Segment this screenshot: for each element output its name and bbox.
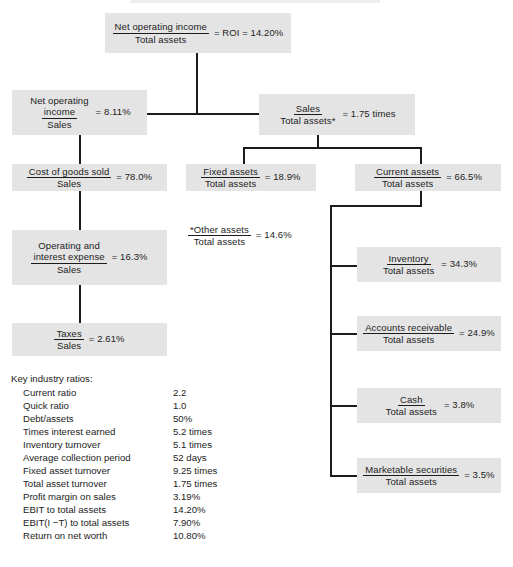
table-row: EBIT to total assets 14.20%: [23, 503, 217, 516]
node-current-assets-fraction: Current assets Total assets: [374, 166, 441, 190]
node-operating-and-interest-expense-denominator: Sales: [55, 264, 83, 275]
node-cash-denominator: Total assets: [384, 406, 439, 417]
node-roi-fraction: Net operating income Total assets: [113, 21, 209, 45]
table-row: Fixed asset turnover 9.25 times: [23, 464, 217, 477]
node-asset-turnover-numerator: Sales: [294, 103, 322, 115]
node-inventory-result: = 34.3%: [441, 259, 477, 270]
node-roi-result: = ROI = 14.20%: [214, 28, 284, 39]
node-inventory-fraction: Inventory Total assets: [381, 253, 436, 277]
connector-cogs-to-operating: [79, 191, 81, 230]
page-top-cutoff-artifact: [130, 0, 380, 3]
node-taxes-denominator: Sales: [55, 340, 83, 351]
node-cash-result: = 3.8%: [444, 400, 474, 411]
node-cash-fraction: Cash Total assets: [384, 394, 439, 418]
node-taxes-numerator: Taxes: [54, 328, 83, 340]
ratio-name: Current ratio: [23, 386, 173, 399]
node-roi-numerator: Net operating income: [113, 21, 209, 33]
ratio-name: Times interest earned: [23, 425, 173, 438]
node-cash-numerator: Cash: [398, 394, 425, 406]
node-current-assets-result: = 66.5%: [446, 172, 482, 183]
node-profit-margin-numerator-line2: income: [42, 106, 77, 118]
node-fixed-assets-numerator: Fixed assets: [201, 166, 260, 178]
ratio-value: 9.25 times: [173, 464, 217, 477]
node-profit-margin-denominator: Sales: [45, 119, 73, 130]
table-row: EBIT(I −T) to total assets 7.90%: [23, 516, 217, 529]
connector-currentassets-stem: [420, 191, 422, 206]
node-taxes: Taxes Sales = 2.61%: [12, 323, 167, 356]
node-cost-of-goods-sold: Cost of goods sold Sales = 78.0%: [12, 164, 167, 191]
connector-operating-to-taxes: [79, 285, 81, 323]
ratio-value: 1.0: [173, 399, 217, 412]
node-asset-turnover-fraction: Sales Total assets*: [278, 103, 337, 127]
node-operating-and-interest-expense-numerator-line1: Operating and: [36, 240, 102, 251]
node-current-assets: Current assets Total assets = 66.5%: [355, 164, 501, 191]
node-fixed-assets: Fixed assets Total assets = 18.9%: [186, 164, 316, 191]
ratio-name: Quick ratio: [23, 399, 173, 412]
connector-bus-to-inventory: [330, 265, 357, 267]
node-taxes-result: = 2.61%: [89, 334, 125, 345]
connector-currentassets-elbow: [330, 205, 422, 207]
node-current-assets-numerator: Current assets: [374, 166, 441, 178]
node-cost-of-goods-sold-fraction: Cost of goods sold Sales: [27, 166, 112, 190]
table-row: Times interest earned 5.2 times: [23, 425, 217, 438]
node-inventory-numerator: Inventory: [387, 253, 431, 265]
table-row: Debt/assets 50%: [23, 412, 217, 425]
connector-row2-horizontal: [132, 113, 271, 115]
connector-to-fixed-assets: [243, 147, 245, 164]
node-roi: Net operating income Total assets = ROI …: [105, 13, 291, 53]
node-operating-and-interest-expense-result: = 16.3%: [112, 252, 148, 263]
connector-profitmargin-to-cogs: [79, 135, 81, 164]
connector-current-asset-bus: [330, 205, 332, 477]
node-profit-margin-numerator-line1: Net operating: [28, 95, 90, 106]
table-row: Inventory turnover 5.1 times: [23, 438, 217, 451]
node-fixed-assets-denominator: Total assets: [203, 178, 258, 189]
ratio-name: EBIT(I −T) to total assets: [23, 516, 173, 529]
ratio-value: 1.75 times: [173, 477, 217, 490]
ratio-value: 5.2 times: [173, 425, 217, 438]
connector-to-current-assets: [420, 147, 422, 164]
key-industry-ratios-panel: Key industry ratios: Current ratio 2.2 Q…: [11, 372, 217, 542]
node-operating-and-interest-expense: Operating and interest expense Sales = 1…: [12, 230, 167, 285]
footnote-other-assets-numerator: *Other assets: [188, 224, 251, 236]
node-cost-of-goods-sold-numerator: Cost of goods sold: [27, 166, 112, 178]
ratio-value: 7.90%: [173, 516, 217, 529]
node-current-assets-denominator: Total assets: [380, 178, 435, 189]
connector-row3-horizontal: [243, 147, 422, 149]
ratio-name: Profit margin on sales: [23, 490, 173, 503]
footnote-other-assets-result: = 14.6%: [256, 230, 292, 241]
ratio-value: 3.19%: [173, 490, 217, 503]
ratio-value: 52 days: [173, 451, 217, 464]
node-inventory-denominator: Total assets: [381, 265, 436, 276]
table-row: Total asset turnover 1.75 times: [23, 477, 217, 490]
node-operating-and-interest-expense-numerator-line2: interest expense: [31, 251, 106, 263]
ratio-name: Average collection period: [23, 451, 173, 464]
node-operating-and-interest-expense-fraction: Operating and interest expense Sales: [31, 240, 106, 275]
table-row: Profit margin on sales 3.19%: [23, 490, 217, 503]
node-cost-of-goods-sold-result: = 78.0%: [116, 172, 152, 183]
node-profit-margin-fraction: Net operating income Sales: [28, 95, 90, 130]
node-inventory: Inventory Total assets = 34.3%: [357, 247, 501, 282]
footnote-other-assets-fraction: *Other assets Total assets: [188, 224, 251, 248]
footnote-other-assets-denominator: Total assets: [192, 236, 247, 247]
ratio-value: 14.20%: [173, 503, 217, 516]
node-marketable-securities-numerator: Marketable securities: [363, 464, 459, 476]
ratio-name: EBIT to total assets: [23, 503, 173, 516]
table-row: Current ratio 2.2: [23, 386, 217, 399]
node-accounts-receivable-denominator: Total assets: [381, 334, 436, 345]
roi-ratio-tree-diagram: Net operating income Total assets = ROI …: [0, 0, 513, 567]
connector-bus-to-cash: [330, 405, 357, 407]
node-accounts-receivable-numerator: Accounts receivable: [363, 322, 454, 334]
connector-bus-to-accounts-receivable: [330, 333, 357, 335]
table-row: Return on net worth 10.80%: [23, 529, 217, 542]
key-industry-ratios-table: Current ratio 2.2 Quick ratio 1.0 Debt/a…: [23, 386, 217, 542]
node-accounts-receivable: Accounts receivable Total assets = 24.9%: [357, 316, 501, 351]
node-fixed-assets-fraction: Fixed assets Total assets: [201, 166, 260, 190]
ratio-value: 10.80%: [173, 529, 217, 542]
ratio-name: Total asset turnover: [23, 477, 173, 490]
ratio-name: Inventory turnover: [23, 438, 173, 451]
connector-bus-to-marketable-securities: [330, 475, 357, 477]
node-marketable-securities-result: = 3.5%: [464, 470, 494, 481]
ratio-name: Fixed asset turnover: [23, 464, 173, 477]
node-profit-margin: Net operating income Sales = 8.11%: [12, 90, 147, 135]
node-profit-margin-result: = 8.11%: [96, 107, 131, 118]
